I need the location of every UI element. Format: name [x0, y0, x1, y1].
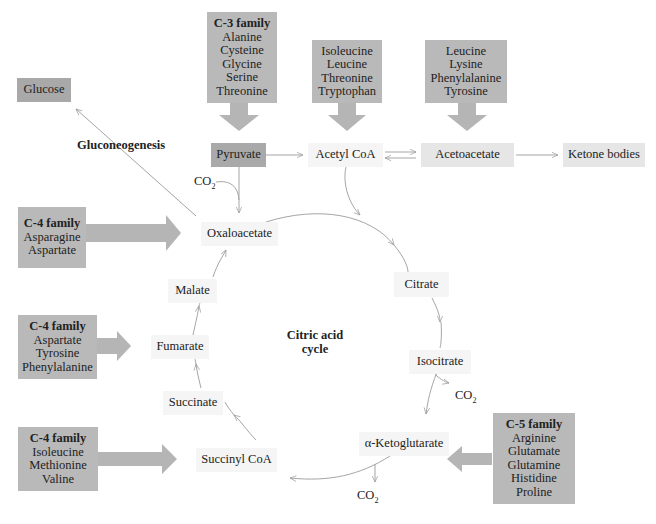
- amino-acid: Isoleucine: [321, 45, 372, 59]
- cycle-title-line1: Citric acid: [280, 328, 350, 342]
- citrate-box: Citrate: [394, 272, 449, 297]
- acetoacetate-box: Acetoacetate: [421, 143, 514, 167]
- family-box-c4-succinyl-coa: C-4 family Isoleucine Methionine Valine: [18, 427, 98, 491]
- cycle-title-line2: cycle: [280, 342, 350, 356]
- ketone-bodies-box: Ketone bodies: [563, 143, 645, 167]
- ketone-bodies-label: Ketone bodies: [568, 148, 640, 162]
- family-box-acetoacetate: Leucine Lysine Phenylalanine Tyrosine: [425, 40, 507, 103]
- malate-label: Malate: [175, 284, 210, 298]
- amino-acid: Threonine: [216, 85, 267, 99]
- succinate-box: Succinate: [163, 391, 223, 415]
- family-title: C-4 family: [29, 320, 86, 334]
- oxaloacetate-box: Oxaloacetate: [201, 222, 278, 246]
- amino-acid: Isoleucine: [32, 446, 83, 460]
- amino-acid: Alanine: [222, 31, 262, 45]
- amino-acid: Tyrosine: [444, 85, 488, 99]
- amino-acid: Arginine: [512, 432, 556, 446]
- acetoacetate-label: Acetoacetate: [435, 148, 500, 162]
- amino-acid: Glutamate: [508, 445, 560, 459]
- isocitrate-box: Isocitrate: [409, 350, 471, 374]
- amino-acid: Glutamine: [508, 459, 561, 473]
- amino-acid: Serine: [226, 71, 258, 85]
- co2-label-ketoglutarate: CO2: [357, 488, 378, 505]
- amino-acid: Aspartate: [28, 244, 76, 258]
- amino-acid: Leucine: [327, 58, 367, 72]
- co2-label-isocitrate: CO2: [455, 388, 476, 405]
- amino-acid: Glycine: [222, 58, 262, 72]
- amino-acid: Phenylalanine: [431, 72, 502, 86]
- amino-acid: Valine: [42, 473, 74, 487]
- amino-acid: Tyrosine: [36, 347, 80, 361]
- family-box-c3: C-3 family Alanine Cysteine Glycine Seri…: [207, 12, 277, 103]
- amino-acid: Phenylalanine: [22, 361, 93, 375]
- citrate-label: Citrate: [404, 278, 438, 292]
- alpha-ketoglutarate-box: α-Ketoglutarate: [359, 432, 449, 456]
- family-box-c4-fumarate: C-4 family Aspartate Tyrosine Phenylalan…: [18, 315, 97, 379]
- amino-acid: Methionine: [29, 459, 87, 473]
- amino-acid: Leucine: [446, 45, 486, 59]
- isocitrate-label: Isocitrate: [417, 355, 464, 369]
- family-box-acetyl-coa: Isoleucine Leucine Threonine Tryptophan: [312, 40, 382, 103]
- family-title: C-5 family: [506, 418, 563, 432]
- family-box-c5: C-5 family Arginine Glutamate Glutamine …: [493, 413, 575, 504]
- family-box-c4-oxaloacetate: C-4 family Asparagine Aspartate: [18, 207, 86, 268]
- amino-acid: Asparagine: [24, 231, 81, 245]
- amino-acid: Aspartate: [34, 334, 82, 348]
- succinyl-coa-box: Succinyl CoA: [196, 448, 277, 472]
- family-title: C-4 family: [24, 217, 81, 231]
- succinyl-coa-label: Succinyl CoA: [201, 453, 271, 467]
- fumarate-label: Fumarate: [156, 340, 203, 354]
- amino-acid: Tryptophan: [318, 85, 376, 99]
- amino-acid: Lysine: [449, 58, 482, 72]
- succinate-label: Succinate: [169, 396, 218, 410]
- alpha-ketoglutarate-label: α-Ketoglutarate: [365, 437, 444, 451]
- acetyl-coa-box: Acetyl CoA: [308, 143, 383, 167]
- gluconeogenesis-label: Gluconeogenesis: [77, 138, 165, 152]
- pyruvate-box: Pyruvate: [211, 143, 266, 167]
- amino-acid: Cysteine: [220, 44, 264, 58]
- cycle-title: Citric acid cycle: [280, 328, 350, 356]
- amino-acid: Histidine: [511, 472, 557, 486]
- pyruvate-label: Pyruvate: [216, 148, 260, 162]
- glucose-label: Glucose: [24, 83, 65, 97]
- co2-label-pyruvate: CO2: [194, 174, 215, 191]
- family-title: C-3 family: [214, 17, 271, 31]
- malate-box: Malate: [168, 279, 217, 303]
- glucose-box: Glucose: [17, 78, 71, 102]
- amino-acid: Proline: [516, 486, 552, 500]
- fumarate-box: Fumarate: [151, 335, 209, 359]
- amino-acid: Threonine: [321, 72, 372, 86]
- oxaloacetate-label: Oxaloacetate: [207, 227, 272, 241]
- family-title: C-4 family: [30, 432, 87, 446]
- acetyl-coa-label: Acetyl CoA: [315, 148, 375, 162]
